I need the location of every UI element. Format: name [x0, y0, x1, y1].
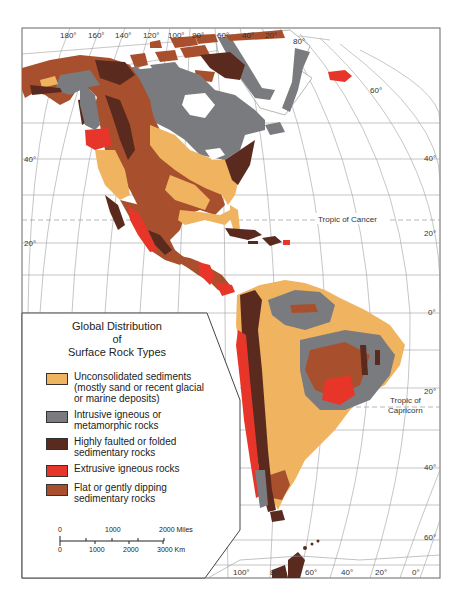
scale-bar: 0 1000 2000 Miles 0 1000 2000 3000 Km — [36, 520, 216, 560]
svg-text:20°: 20° — [375, 568, 387, 577]
svg-text:40°: 40° — [341, 568, 353, 577]
svg-text:20°: 20° — [424, 387, 436, 396]
tropic-of-capricorn-label-1: Tropic of — [390, 396, 422, 405]
svg-text:60°: 60° — [370, 86, 382, 95]
svg-text:60°: 60° — [217, 31, 229, 40]
svg-text:60°: 60° — [424, 533, 436, 542]
svg-text:180°: 180° — [60, 31, 77, 40]
svg-text:80°: 80° — [192, 31, 204, 40]
scale-miles-label: 2000 Miles — [159, 526, 193, 533]
tropic-of-cancer-label: Tropic of Cancer — [318, 215, 377, 224]
svg-text:40°: 40° — [424, 154, 436, 163]
svg-text:120°: 120° — [143, 31, 160, 40]
svg-text:100°: 100° — [233, 568, 250, 577]
tropic-of-capricorn-label-2: Capricorn — [388, 406, 423, 415]
map-canvas: 180° 160° 140° 120° 100° 80° 60° 40° 20°… — [0, 0, 465, 610]
scale-miles-label: 1000 — [105, 526, 121, 533]
svg-text:140°: 140° — [115, 31, 132, 40]
scale-km-label: 1000 — [89, 546, 105, 553]
svg-text:60°: 60° — [305, 568, 317, 577]
svg-text:20°: 20° — [24, 239, 36, 248]
svg-text:20°: 20° — [424, 229, 436, 238]
svg-text:0°: 0° — [412, 568, 420, 577]
svg-text:20°: 20° — [265, 31, 277, 40]
svg-text:160°: 160° — [88, 31, 105, 40]
svg-text:80°: 80° — [293, 37, 305, 46]
scale-km-label: 0 — [58, 546, 62, 553]
svg-text:0°: 0° — [428, 308, 436, 317]
svg-text:40°: 40° — [24, 155, 36, 164]
scale-km-label: 3000 Km — [157, 546, 185, 553]
svg-text:80°: 80° — [270, 568, 282, 577]
scale-miles-label: 0 — [58, 526, 62, 533]
svg-text:40°: 40° — [424, 463, 436, 472]
scale-km-label: 2000 — [123, 546, 139, 553]
svg-text:100°: 100° — [168, 31, 185, 40]
svg-text:40°: 40° — [242, 31, 254, 40]
